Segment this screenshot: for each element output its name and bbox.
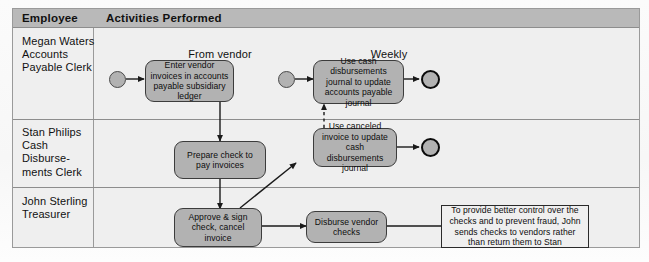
activity-prepare-check[interactable]: Prepare check to pay invoices xyxy=(174,141,266,179)
swimlane-table: Employee Activities Performed Megan Wate… xyxy=(12,8,640,248)
column-header-employee: Employee xyxy=(22,9,78,28)
activity-enter-vendor-invoices[interactable]: Enter vendor invoices in accounts payabl… xyxy=(145,60,234,102)
end-terminator-2 xyxy=(421,138,440,157)
start-terminator-1 xyxy=(109,71,126,88)
flowchart-screenshot: Employee Activities Performed Megan Wate… xyxy=(0,0,649,262)
activity-approve-sign-check[interactable]: Approve & sign check, cancel invoice xyxy=(174,208,262,247)
activity-use-canceled-invoice[interactable]: Use canceled invoice to update cash disb… xyxy=(313,128,397,167)
table-header-row: Employee Activities Performed xyxy=(13,9,639,28)
activity-use-cash-disbursements-journal[interactable]: Use cash disbursements journal to update… xyxy=(313,60,404,104)
caption-from-vendor: From vendor xyxy=(140,48,300,60)
end-terminator-1 xyxy=(421,70,440,89)
employee-name-john-sterling: John Sterling Treasurer xyxy=(22,195,96,221)
flow-canvas: From vendor Weekly Enter vendor invoices… xyxy=(94,28,640,248)
column-header-activities: Activities Performed xyxy=(106,9,222,28)
annotation-control-note: To provide better control over the check… xyxy=(441,205,589,248)
start-terminator-2 xyxy=(278,71,295,88)
activity-disburse-vendor-checks[interactable]: Disburse vendor checks xyxy=(306,211,387,243)
employee-name-megan-waters: Megan Waters Accounts Payable Clerk xyxy=(22,35,96,75)
employee-name-stan-philips: Stan Philips Cash Disburse- ments Clerk xyxy=(22,126,96,179)
